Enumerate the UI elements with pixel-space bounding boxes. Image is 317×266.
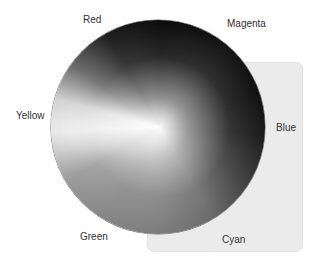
color-wheel[interactable] xyxy=(51,20,265,234)
label-green: Green xyxy=(80,231,108,242)
label-cyan: Cyan xyxy=(222,234,245,245)
label-blue: Blue xyxy=(276,122,296,133)
label-red: Red xyxy=(83,14,101,25)
center-glow xyxy=(51,20,265,234)
label-yellow: Yellow xyxy=(16,110,45,121)
label-magenta: Magenta xyxy=(227,18,266,29)
